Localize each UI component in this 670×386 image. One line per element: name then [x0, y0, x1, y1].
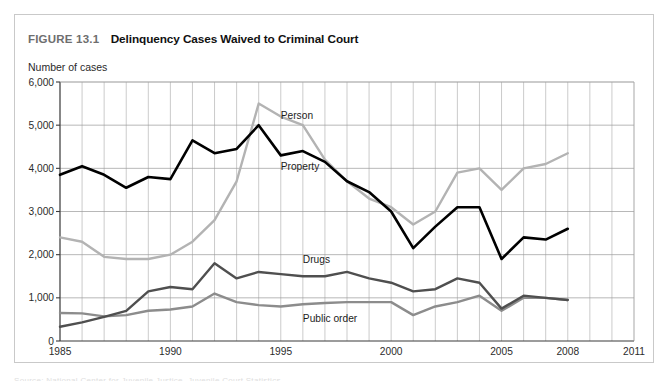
cut-off-caption: Source: National Center for Juvenile Jus…: [14, 369, 654, 381]
x-tick-label: 1990: [159, 346, 182, 357]
y-tick-labels: 01,0002,0003,0004,0005,0006,000: [29, 77, 55, 347]
x-tick-label: 1995: [269, 346, 292, 357]
line-chart: 01,0002,0003,0004,0005,0006,000 19851990…: [15, 15, 654, 363]
y-tick-label: 3,000: [29, 206, 55, 217]
y-tick-label: 6,000: [29, 77, 55, 88]
series-label-public-order: Public order: [303, 313, 358, 324]
x-tick-labels: 1985199019952000200520082011: [49, 346, 646, 357]
x-tick-label: 2005: [490, 346, 513, 357]
y-tick-label: 0: [48, 336, 54, 347]
series-label-property: Property: [281, 161, 320, 172]
series-line-property: [60, 125, 568, 259]
y-tick-label: 5,000: [29, 120, 55, 131]
y-tick-label: 4,000: [29, 163, 55, 174]
series-layer: [60, 104, 568, 327]
figure-card: FIGURE 13.1 Delinquency Cases Waived to …: [14, 14, 654, 363]
cut-off-caption-text: Source: National Center for Juvenile Jus…: [14, 376, 281, 381]
x-tick-label: 1985: [49, 346, 72, 357]
x-tick-label: 2000: [380, 346, 403, 357]
series-annotations: PersonPropertyDrugsPublic order: [281, 110, 358, 325]
y-tick-label: 2,000: [29, 249, 55, 260]
chart-plot-area: 01,0002,0003,0004,0005,0006,000 19851990…: [15, 15, 654, 363]
y-tick-label: 1,000: [29, 292, 55, 303]
x-tick-label: 2008: [556, 346, 579, 357]
series-label-person: Person: [281, 110, 313, 121]
series-label-drugs: Drugs: [303, 254, 330, 265]
x-tick-label: 2011: [623, 346, 645, 357]
